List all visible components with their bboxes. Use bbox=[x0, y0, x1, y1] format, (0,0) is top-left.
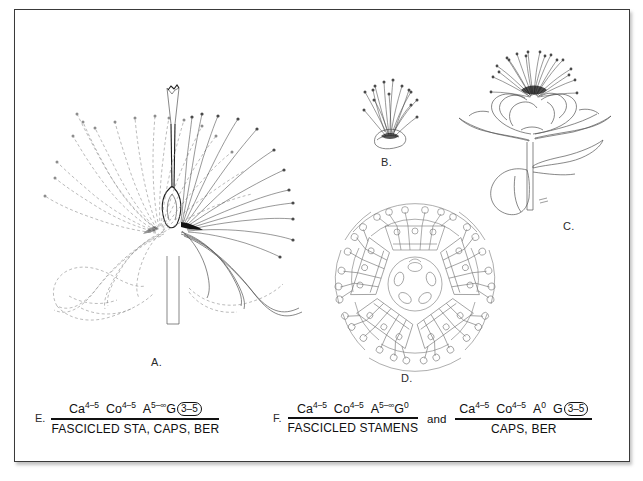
formula-f-first-androecium: A5–∞ bbox=[367, 402, 394, 416]
formula-e-androecium-superscript: 5–∞ bbox=[151, 400, 166, 410]
formula-f-first-gynoecium: G0 bbox=[394, 402, 408, 416]
figure-plate: A. bbox=[14, 9, 630, 462]
panel-c-label: C. bbox=[563, 220, 575, 232]
formula-e-calyx: Ca4–5 bbox=[69, 402, 99, 416]
formula-f-label: F. bbox=[273, 412, 282, 424]
formula-e-corolla-superscript: 4–5 bbox=[122, 400, 136, 410]
formula-e-label: E. bbox=[35, 412, 45, 424]
formula-e-numerator: Ca4–5 Co4–5 A5–∞G3–5 bbox=[51, 400, 219, 418]
formula-e: E. Ca4–5 Co4–5 A5–∞G3–5 FASCICLED STA, C… bbox=[35, 400, 219, 436]
formula-f-second-numerator: Ca4–5 Co4–5 A0 G3–5 bbox=[455, 400, 592, 418]
formula-f-first-numerator: Ca4–5 Co4–5 A5–∞G0 bbox=[288, 400, 419, 417]
formula-f-connector: and bbox=[427, 400, 446, 425]
formula-f-second-calyx-superscript: 4–5 bbox=[475, 400, 489, 410]
formula-e-gynoecium-circled: 3–5 bbox=[177, 402, 202, 416]
formula-e-gynoecium: G bbox=[166, 402, 176, 416]
formula-f-second-androecium: A0 bbox=[529, 402, 545, 416]
formula-f-second-androecium-superscript: 0 bbox=[541, 400, 546, 410]
formula-f-first-gynoecium-superscript: 0 bbox=[404, 400, 409, 410]
formula-f-second-gynoecium-circled: 3–5 bbox=[564, 402, 589, 416]
formula-f: F. Ca4–5 Co4–5 A5–∞G0 FASCICLED STAMENS … bbox=[273, 400, 592, 436]
formula-f-second-denominator: CAPS, BER bbox=[455, 420, 592, 436]
panel-a-drawing bbox=[21, 24, 331, 354]
formula-f-second-fraction: Ca4–5 Co4–5 A0 G3–5 CAPS, BER bbox=[455, 400, 592, 436]
panel-b-label: B. bbox=[381, 156, 392, 168]
formula-f-second-gynoecium: G bbox=[549, 402, 562, 416]
formula-f-first-calyx: Ca4–5 bbox=[297, 402, 327, 416]
panel-b-drawing bbox=[347, 52, 443, 164]
formula-f-second-corolla-superscript: 4–5 bbox=[512, 400, 526, 410]
formula-f-first-androecium-superscript: 5–∞ bbox=[379, 400, 394, 410]
panel-d-label: D. bbox=[401, 372, 413, 384]
panel-a-flower-longitudinal-section: A. bbox=[21, 24, 331, 354]
formula-e-corolla: Co4–5 bbox=[102, 402, 135, 416]
formula-f-first-calyx-superscript: 4–5 bbox=[313, 400, 327, 410]
formula-e-fraction: Ca4–5 Co4–5 A5–∞G3–5 FASCICLED STA, CAPS… bbox=[51, 400, 219, 436]
formula-f-first-fraction: Ca4–5 Co4–5 A5–∞G0 FASCICLED STAMENS bbox=[288, 400, 419, 435]
formula-e-androecium: A5–∞ bbox=[139, 402, 166, 416]
formula-f-second-corolla: Co4–5 bbox=[493, 402, 526, 416]
panel-b-stamen-fascicle: B. bbox=[347, 52, 443, 164]
formula-f-second-calyx: Ca4–5 bbox=[459, 402, 489, 416]
formula-f-first-corolla: Co4–5 bbox=[330, 402, 363, 416]
formula-f-first-corolla-superscript: 4–5 bbox=[350, 400, 364, 410]
panel-a-label: A. bbox=[151, 356, 162, 368]
floral-formulas: E. Ca4–5 Co4–5 A5–∞G3–5 FASCICLED STA, C… bbox=[15, 392, 631, 462]
formula-f-first-denominator: FASCICLED STAMENS bbox=[288, 419, 419, 435]
panel-d-floral-diagram: D. bbox=[315, 196, 515, 388]
formula-e-denominator: FASCICLED STA, CAPS, BER bbox=[51, 420, 219, 436]
formula-e-calyx-superscript: 4–5 bbox=[85, 400, 99, 410]
panel-d-drawing bbox=[315, 196, 515, 388]
